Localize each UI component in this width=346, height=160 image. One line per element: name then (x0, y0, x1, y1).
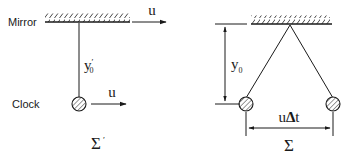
displacement-label: uΔt (278, 109, 300, 125)
frame-label-sigma-prime: Σ′ (91, 134, 105, 153)
displacement-label-t: t (295, 109, 300, 125)
hatched-ball-icon (326, 97, 340, 111)
velocity-arrow-bottom: u (91, 84, 126, 104)
hatched-mirror-icon (251, 16, 332, 25)
left-panel-group: Mirror y′0 Clock u u (8, 2, 166, 153)
height-label-y0-prime: y′0 (84, 57, 94, 75)
dimension-u-delta-t: uΔt (246, 109, 333, 136)
dimension-y0: y0 (215, 24, 247, 104)
frame-label-sigma: Σ (284, 136, 294, 155)
height-label-sub: 0 (239, 66, 243, 75)
mirror-label: Mirror (8, 16, 37, 28)
velocity-arrow-top: u (132, 2, 166, 22)
physics-figure: Mirror y′0 Clock u u (0, 0, 346, 160)
frame-label-prime: ′ (103, 135, 105, 145)
hatched-ball-icon (72, 97, 86, 111)
svg-text:y′0: y′0 (84, 57, 94, 75)
hatched-mirror-icon (45, 14, 130, 23)
height-label-y0: y0 (231, 56, 243, 75)
frame-label-base: Σ (91, 134, 101, 153)
figure-canvas: Mirror y′0 Clock u u (0, 0, 346, 160)
right-panel-group: y0 uΔt Σ (215, 16, 340, 156)
hatched-ball-icon (239, 97, 253, 111)
velocity-label-top: u (148, 2, 156, 18)
height-label-sub: 0 (89, 66, 93, 75)
velocity-label-bottom: u (108, 84, 116, 100)
light-path-v (246, 25, 333, 98)
clock-label: Clock (12, 98, 40, 110)
